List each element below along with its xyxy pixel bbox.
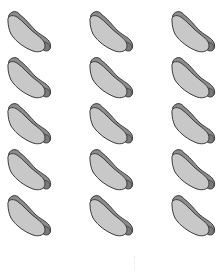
hotdog-icon <box>167 101 219 147</box>
hotdog-icon <box>3 9 55 55</box>
hotdog-icon <box>3 193 55 239</box>
hotdog-icon <box>167 55 219 101</box>
hotdog-icon <box>3 101 55 147</box>
hotdog-icon <box>85 147 137 193</box>
hotdog-icon <box>85 9 137 55</box>
hotdog-icon <box>3 147 55 193</box>
hotdog-icon <box>3 55 55 101</box>
faint-mark <box>134 256 138 270</box>
hotdog-icon <box>85 101 137 147</box>
hotdog-grid <box>0 0 223 275</box>
hotdog-icon <box>167 9 219 55</box>
hotdog-icon <box>85 55 137 101</box>
hotdog-icon <box>85 193 137 239</box>
hotdog-icon <box>167 147 219 193</box>
hotdog-icon <box>167 193 219 239</box>
